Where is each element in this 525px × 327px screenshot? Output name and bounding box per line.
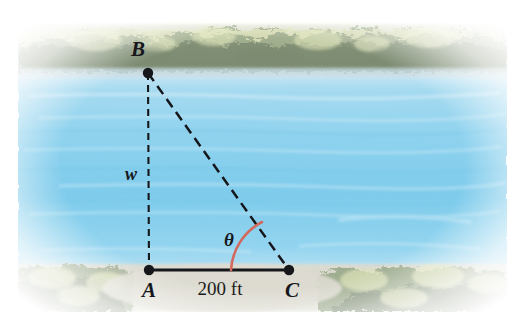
vertex-label-B: B	[130, 37, 145, 61]
angle-label-theta: θ	[224, 229, 234, 250]
vertex-label-A: A	[140, 278, 156, 302]
vignette-overlay	[0, 0, 525, 327]
vertex-label-C: C	[285, 278, 300, 302]
river-width-figure: B A C w θ 200 ft	[0, 0, 525, 327]
width-label-w: w	[125, 164, 138, 184]
vertex-dot-A	[144, 265, 154, 275]
vertex-dot-B	[143, 68, 153, 78]
vertex-dot-C	[284, 265, 294, 275]
baseline-label-200ft: 200 ft	[198, 278, 244, 299]
